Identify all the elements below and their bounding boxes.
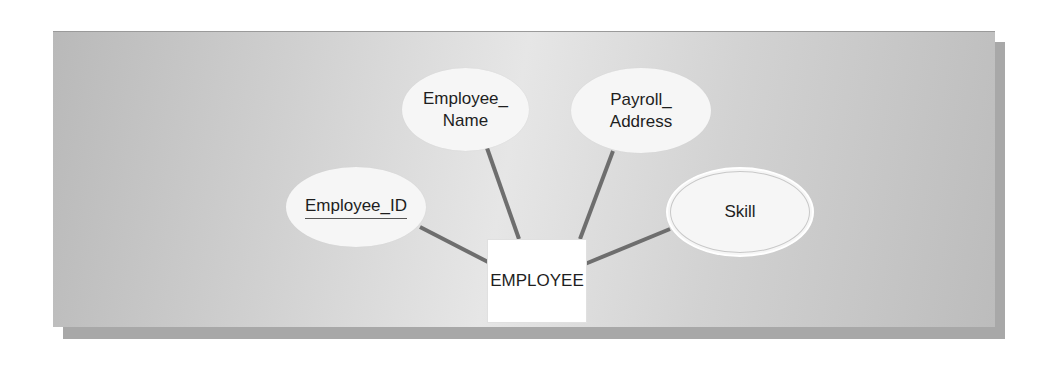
attribute-label-line1: Payroll_ <box>610 89 671 111</box>
attribute-payroll-address: Payroll_ Address <box>571 68 711 153</box>
link-skill <box>585 229 670 264</box>
link-employee-id <box>420 227 488 262</box>
attribute-label-line2: Address <box>610 111 672 133</box>
link-employee-name <box>487 148 519 239</box>
attribute-label-line1: Employee_ <box>423 88 508 110</box>
attribute-employee-id: Employee_ID <box>286 167 426 247</box>
attribute-label: Employee_ID <box>305 195 407 219</box>
attribute-skill-multivalued: Skill <box>666 167 814 257</box>
attribute-label: Skill <box>724 201 755 223</box>
entity-employee: EMPLOYEE <box>487 239 587 323</box>
link-payroll-address <box>580 151 613 239</box>
attribute-employee-name: Employee_ Name <box>402 68 529 151</box>
entity-label: EMPLOYEE <box>490 271 584 291</box>
attribute-label-line2: Name <box>443 110 488 132</box>
